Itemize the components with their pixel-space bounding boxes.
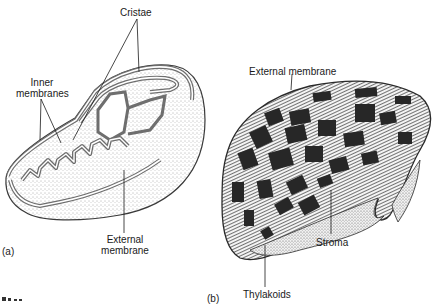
label-external-membrane-b: External membrane xyxy=(249,66,336,77)
panel-tag-b: (b) xyxy=(207,293,219,304)
mitochondrion-illustration xyxy=(6,19,205,233)
label-inner-membranes: Inner membranes xyxy=(16,77,68,99)
label-cristae: Cristae xyxy=(120,7,152,18)
label-thylakoids: Thylakoids xyxy=(243,289,291,300)
panel-tag-a: (a) xyxy=(2,246,14,257)
caption-fragment xyxy=(2,297,6,301)
label-stroma: Stroma xyxy=(316,237,348,248)
chloroplast-illustration xyxy=(222,74,431,287)
label-external-membrane-a: External membrane xyxy=(100,234,150,256)
